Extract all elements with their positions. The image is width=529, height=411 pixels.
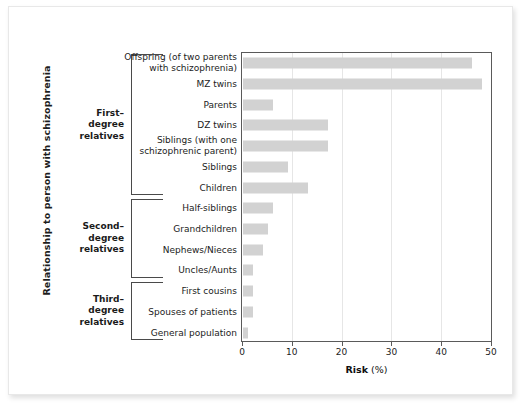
bar: [243, 161, 288, 172]
bar-row: Siblings: [242, 157, 491, 178]
bar: [243, 224, 268, 235]
bar-row: Offspring (of two parentswith schizophre…: [242, 53, 491, 74]
bar-row-label: Siblings: [202, 161, 237, 172]
bar-row: DZ twins: [242, 115, 491, 136]
bar-row: Half-siblings: [242, 198, 491, 219]
group-bracket-block: Second–degreerelatives: [131, 199, 163, 278]
bar-row: Nephews/Nieces: [242, 239, 491, 260]
group-label-line: relatives: [80, 317, 124, 329]
bar-row: General population: [242, 322, 491, 343]
bar-row-label: MZ twins: [196, 79, 237, 90]
group-label-line: degree: [80, 305, 124, 317]
group-label: Second–degreerelatives: [80, 221, 124, 256]
bar: [243, 182, 308, 193]
group-label-line: First–: [80, 107, 124, 119]
bar: [243, 265, 253, 276]
bar: [243, 99, 273, 110]
bar-row: Parents: [242, 94, 491, 115]
group-label: First–degreerelatives: [80, 107, 124, 142]
bar-row-label: Offspring (of two parentswith schizophre…: [124, 52, 237, 74]
bar-row: MZ twins: [242, 74, 491, 95]
group-label-line: degree: [80, 233, 124, 245]
bar-row: Grandchildren: [242, 219, 491, 240]
bar-row-label: Parents: [204, 99, 238, 110]
figure-card: Relationship to person with schizophreni…: [8, 6, 513, 395]
x-axis-tick: [292, 342, 293, 346]
bar-row-label: Uncles/Aunts: [178, 265, 237, 276]
bar-row-label: Siblings (with oneschizophrenic parent): [139, 135, 237, 157]
bar: [243, 203, 273, 214]
group-label-line: Second–: [80, 221, 124, 233]
bar-row-label-line: schizophrenic parent): [139, 146, 237, 157]
x-axis-tick: [242, 342, 243, 346]
bar-row-label: Half-siblings: [182, 203, 237, 214]
bar-row-label-line: with schizophrenia): [124, 63, 237, 74]
group-bracket: [131, 199, 163, 278]
x-axis-tick: [491, 342, 492, 346]
x-axis-tick-label: 40: [435, 347, 446, 357]
x-axis-tick: [441, 342, 442, 346]
x-axis-tick-label: 50: [485, 347, 496, 357]
x-axis-tick-label: 0: [239, 347, 245, 357]
bar-row: Children: [242, 177, 491, 198]
bar: [243, 286, 253, 297]
bar-row-label-line: Offspring (of two parents: [124, 52, 237, 63]
bar: [243, 79, 482, 90]
group-bracket-block: First–degreerelatives: [131, 54, 163, 195]
bar-row-label: Children: [200, 182, 237, 193]
x-axis-tick-label: 10: [286, 347, 297, 357]
bar-row-label: Spouses of patients: [148, 306, 237, 317]
bar-row: Siblings (with oneschizophrenic parent): [242, 136, 491, 157]
bar-row-label: Nephews/Nieces: [163, 244, 237, 255]
bar-row-label-line: Siblings (with one: [139, 135, 237, 146]
x-axis-tick-label: 30: [386, 347, 397, 357]
bar: [243, 120, 328, 131]
bar-row-label: General population: [151, 327, 237, 338]
bar-row-label: DZ twins: [197, 120, 237, 131]
group-label-line: relatives: [80, 244, 124, 256]
group-label-line: relatives: [80, 130, 124, 142]
bar: [243, 327, 248, 338]
x-axis: 01020304050Risk (%): [241, 342, 492, 388]
bar: [243, 141, 328, 152]
x-axis-title: Risk (%): [241, 364, 492, 375]
x-axis-title-unit: (%): [368, 364, 387, 375]
bar: [243, 244, 263, 255]
x-axis-title-main: Risk: [345, 364, 368, 375]
bar-row-label: Grandchildren: [173, 224, 237, 235]
group-bracket: [131, 54, 163, 195]
group-label: Third–degreerelatives: [80, 294, 124, 329]
x-axis-tick: [391, 342, 392, 346]
bar-row-label: First cousins: [181, 286, 237, 297]
bar: [243, 306, 253, 317]
bar-row: Uncles/Aunts: [242, 260, 491, 281]
group-label-line: degree: [80, 119, 124, 131]
group-label-line: Third–: [80, 294, 124, 306]
x-axis-tick-label: 20: [336, 347, 347, 357]
x-axis-tick: [342, 342, 343, 346]
plot-area: Offspring (of two parentswith schizophre…: [241, 52, 492, 342]
bar-row: First cousins: [242, 281, 491, 302]
y-axis-title: Relationship to person with schizophreni…: [41, 56, 52, 306]
bar-row: Spouses of patients: [242, 302, 491, 323]
bar: [243, 58, 472, 69]
